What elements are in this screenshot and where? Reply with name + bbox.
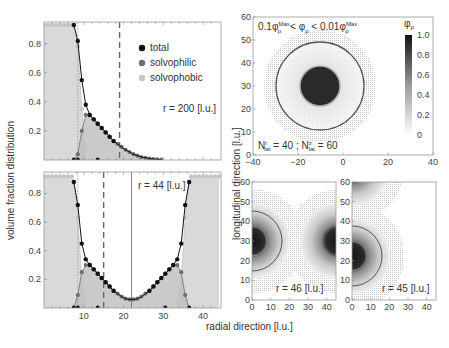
x-tick-label: 40 [428, 157, 438, 167]
annotation-r200: r = 200 [l.u.] [163, 103, 216, 114]
solvophilic-marker [76, 293, 80, 297]
particle-core [300, 66, 340, 106]
x-tick-label: 30 [303, 302, 313, 312]
total-marker [80, 78, 84, 82]
solvophilic-marker [76, 152, 80, 156]
total-marker [76, 203, 80, 207]
total-marker [107, 284, 111, 288]
solvophilic-marker [179, 270, 183, 274]
legend-label-solvophobic: solvophobic [150, 72, 203, 83]
y-tick-label: 30 [340, 236, 350, 246]
y-tick-label: 20 [340, 256, 350, 266]
y-tick-label: 0.2 [28, 126, 41, 136]
total-marker [76, 158, 80, 162]
y-tick-label: 0.4 [28, 246, 41, 256]
legend: total solvophilic solvophobic [139, 42, 203, 83]
panel-top-right: 0102030405060−40−2002040 0.1φMaxp< φp < … [241, 12, 438, 167]
panel-bottom-left: 0.20.40.60.810203040 r = 44 [l.u.] [28, 172, 221, 321]
y-axis-label-left: volume fraction distribution [5, 121, 16, 240]
y-tick-label: 0.6 [28, 217, 41, 227]
total-marker [111, 289, 115, 293]
total-marker [187, 306, 191, 310]
legend-label-total: total [150, 42, 169, 53]
colorbar-tick-label: 0.4 [417, 90, 430, 100]
total-marker [72, 23, 76, 27]
total-marker [167, 267, 171, 271]
colorbar-tick-label: 0 [417, 130, 422, 140]
x-tick-label: 20 [119, 311, 129, 321]
title-part: < φ [290, 21, 306, 32]
solvophobic-marker [54, 23, 58, 27]
annotation-r46: r = 46 [l.u.] [276, 283, 324, 294]
figure: volume fraction distribution longitudina… [0, 0, 449, 348]
total-marker [147, 289, 151, 293]
title-part: < 0.01φ [309, 21, 347, 32]
solvophobic-marker [46, 174, 50, 178]
y-tick-label: 0.4 [28, 97, 41, 107]
total-marker [151, 284, 155, 288]
ann-part: = 60 [315, 140, 338, 151]
solvophobic-marker [84, 300, 88, 304]
annotation-r44: r = 44 [l.u.] [138, 180, 186, 191]
total-marker [155, 280, 159, 284]
total-marker [92, 267, 96, 271]
y-tick-label: 0.8 [28, 39, 41, 49]
total-marker [103, 130, 107, 134]
x-tick-label: 40 [322, 302, 332, 312]
total-marker [159, 276, 163, 280]
total-marker [163, 306, 167, 310]
solvophilic-marker [80, 129, 84, 133]
y-tick-label: 30 [241, 81, 251, 91]
ann-part: = 40 ; N [271, 140, 309, 151]
y-tick-label: 10 [241, 127, 251, 137]
y-tick-label: 40 [241, 58, 251, 68]
solvophobic-marker [58, 174, 62, 178]
solvophobic-marker [84, 148, 88, 152]
total-marker [84, 103, 88, 107]
solvophobic-marker [46, 23, 50, 27]
x-tick-label: 20 [384, 302, 394, 312]
y-tick-label: 60 [340, 177, 350, 187]
total-marker [175, 257, 179, 261]
x-tick-label: 0 [249, 302, 254, 312]
solvophobic-area [44, 25, 86, 160]
solvophobic-marker [193, 174, 197, 178]
total-marker [76, 39, 80, 43]
total-marker [103, 280, 107, 284]
colorbar-tick-label: 1.0 [417, 30, 430, 40]
solvophilic-marker [80, 270, 84, 274]
total-marker [96, 306, 100, 310]
colorbar-tick-label: 0.8 [417, 50, 430, 60]
colorbar-tick-label: 0.6 [417, 70, 430, 80]
solvophobic-marker [209, 174, 213, 178]
solvophobic-marker [70, 174, 74, 178]
total-marker [72, 306, 76, 310]
x-tick-label: 10 [366, 302, 376, 312]
solvophilic-marker [84, 263, 88, 267]
solvophobic-marker [50, 174, 54, 178]
colorbar-tick-label: 0.2 [417, 110, 430, 120]
total-marker [72, 158, 76, 162]
total-marker [99, 126, 103, 130]
x-tick-label: −20 [290, 157, 305, 167]
y-tick-label: 60 [241, 12, 251, 22]
total-marker [187, 180, 191, 184]
total-marker [111, 139, 115, 143]
annotation-r45: r = 45 [l.u.] [382, 283, 430, 294]
solvophobic-marker [175, 300, 179, 304]
total-marker [84, 257, 88, 261]
title-sup: Max [278, 21, 289, 27]
total-marker [80, 241, 84, 245]
total-marker [183, 203, 187, 207]
total-marker [107, 135, 111, 139]
legend-marker-total [139, 45, 145, 51]
y-tick-label: 50 [241, 35, 251, 45]
total-marker [76, 306, 80, 310]
total-marker [92, 117, 96, 121]
legend-label-solvophilic: solvophilic [150, 57, 196, 68]
solvophobic-marker [213, 174, 217, 178]
total-marker [95, 121, 99, 125]
total-marker [163, 271, 167, 275]
x-tick-label: 10 [79, 311, 89, 321]
y-tick-label: 10 [240, 275, 250, 285]
